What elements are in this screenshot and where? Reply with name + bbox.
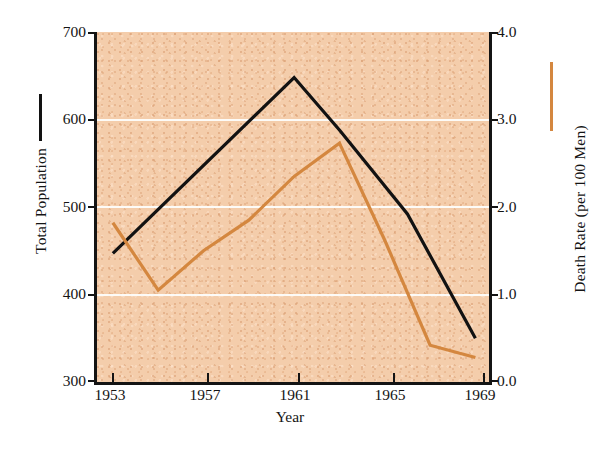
population-line [113, 78, 476, 339]
death-rate-line [113, 143, 476, 357]
x-tick-label-1957: 1957 [170, 386, 240, 404]
x-tick-label-1969: 1969 [445, 386, 515, 404]
x-tick-label-1961: 1961 [260, 386, 330, 404]
y-left-tick-700 [88, 32, 97, 34]
y-right-tick-label-4: 4.0 [497, 23, 537, 41]
x-axis-title: Year [0, 408, 580, 426]
y-right-tick-3 [489, 119, 498, 121]
y-right-tick-1 [489, 294, 498, 296]
y-left-tick-500 [88, 206, 97, 208]
y-right-tick-label-1: 1.0 [497, 285, 537, 303]
y-right-tick-4 [489, 32, 498, 34]
y-left-tick-300 [88, 380, 97, 382]
y-right-tick-label-3: 3.0 [497, 110, 537, 128]
death-rate-legend-swatch [550, 62, 553, 131]
y-left-tick-label-500: 500 [40, 198, 86, 216]
y-right-tick-label-2: 2.0 [497, 198, 537, 216]
x-tick-label-1965: 1965 [355, 386, 425, 404]
y-left-tick-label-700: 700 [40, 23, 86, 41]
y-left-tick-600 [88, 119, 97, 121]
y-left-tick-400 [88, 294, 97, 296]
plot-area [94, 32, 492, 385]
x-tick-label-1953: 1953 [75, 386, 145, 404]
y-right-tick-2 [489, 206, 498, 208]
y-right-tick-0 [489, 380, 498, 382]
y-left-tick-label-600: 600 [40, 110, 86, 128]
right-axis-title: Death Rate (per 100 Men) [571, 84, 589, 334]
y-left-tick-label-400: 400 [40, 285, 86, 303]
series-layer [97, 32, 489, 382]
